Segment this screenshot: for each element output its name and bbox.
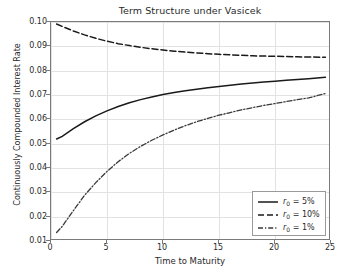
x-axis-tick-mark <box>106 240 107 244</box>
x-axis-label: Time to Maturity <box>50 256 330 266</box>
y-axis-tick: 0.03 <box>3 187 47 196</box>
y-axis-tick: 0.05 <box>3 138 47 147</box>
legend-label: r0 = 5% <box>279 197 315 206</box>
x-axis-tick: 5 <box>91 243 121 252</box>
x-axis-tick-mark <box>162 240 163 244</box>
legend-line-swatch <box>257 197 279 207</box>
x-axis-tick: 25 <box>315 243 345 252</box>
y-axis-tick: 0.06 <box>3 114 47 123</box>
chart-screenshot: Term Structure under Vasicek Continuousl… <box>0 0 346 273</box>
legend-label: r0 = 10% <box>279 210 320 219</box>
x-axis-tick-mark <box>330 240 331 244</box>
y-axis-tick: 0.09 <box>3 41 47 50</box>
legend-line-swatch <box>257 210 279 220</box>
x-axis-tick: 10 <box>147 243 177 252</box>
x-axis-tick: 20 <box>259 243 289 252</box>
y-axis-tick: 0.10 <box>3 17 47 26</box>
x-axis-tick-mark <box>218 240 219 244</box>
y-axis-tick: 0.02 <box>3 211 47 220</box>
series-line <box>57 77 326 139</box>
legend-item: r0 = 1% <box>257 221 321 234</box>
series-line <box>57 24 326 57</box>
x-axis-tick-mark <box>50 240 51 244</box>
legend-label: r0 = 1% <box>279 223 315 232</box>
legend-item: r0 = 10% <box>257 208 321 221</box>
chart-legend: r0 = 5%r0 = 10%r0 = 1% <box>252 191 326 236</box>
y-axis-tick: 0.08 <box>3 65 47 74</box>
x-axis-tick: 15 <box>203 243 233 252</box>
legend-item: r0 = 5% <box>257 195 321 208</box>
y-axis-tick: 0.04 <box>3 163 47 172</box>
x-axis-tick-mark <box>274 240 275 244</box>
chart-title: Term Structure under Vasicek <box>50 5 330 16</box>
y-axis-tick: 0.07 <box>3 90 47 99</box>
legend-line-swatch <box>257 223 279 233</box>
x-axis-tick: 0 <box>35 243 65 252</box>
